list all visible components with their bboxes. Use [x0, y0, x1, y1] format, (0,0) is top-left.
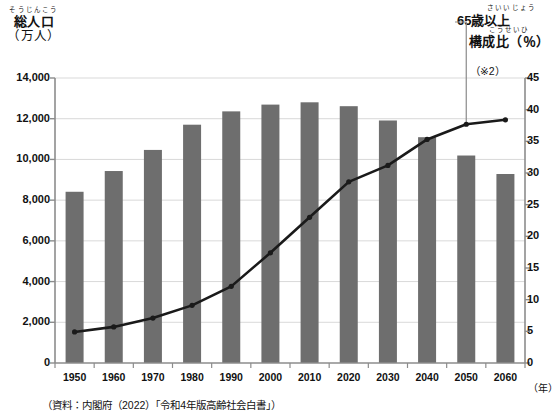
x-axis-tick-label: 2050: [446, 371, 486, 383]
plot-area: [0, 0, 557, 415]
line-marker-elderly-ratio: [111, 324, 116, 329]
x-axis-tick-label: 1970: [133, 371, 173, 383]
line-elderly-ratio: [75, 120, 506, 332]
callout-leader-line: [455, 22, 466, 124]
x-axis-tick-label: 1950: [55, 371, 95, 383]
bar-total-population: [457, 156, 475, 363]
left-axis-tick-label: 12,000: [4, 112, 50, 124]
x-axis-tick-label: 2000: [250, 371, 290, 383]
bar-total-population: [340, 106, 358, 363]
line-marker-elderly-ratio: [268, 250, 273, 255]
left-axis-tick-label: 4,000: [4, 275, 50, 287]
right-axis-tick-label: 5: [527, 324, 557, 336]
population-composition-chart: そうじんこう 総人口 （万人） こうせいひ 構成比（％） （※2） さいいじょう…: [0, 0, 557, 415]
bar-total-population: [418, 137, 436, 363]
bar-total-population: [183, 125, 201, 363]
left-axis-tick-label: 2,000: [4, 315, 50, 327]
left-axis-tick-label: 8,000: [4, 193, 50, 205]
right-axis-tick-label: 45: [527, 71, 557, 83]
right-axis-tick-label: 20: [527, 229, 557, 241]
line-marker-elderly-ratio: [307, 215, 312, 220]
bar-total-population: [379, 120, 397, 363]
right-axis-tick-label: 30: [527, 166, 557, 178]
line-marker-elderly-ratio: [150, 315, 155, 320]
line-marker-elderly-ratio: [385, 163, 390, 168]
left-axis-tick-label: 10,000: [4, 152, 50, 164]
bar-total-population: [496, 174, 514, 363]
right-axis-tick-label: 25: [527, 198, 557, 210]
x-axis-tick-label: 1960: [94, 371, 134, 383]
left-axis-tick-label: 0: [4, 356, 50, 368]
x-axis-tick-label: 2010: [290, 371, 330, 383]
x-axis-tick-label: 2060: [485, 371, 525, 383]
line-marker-elderly-ratio: [346, 179, 351, 184]
bar-total-population: [222, 111, 240, 363]
line-marker-elderly-ratio: [464, 122, 469, 127]
line-marker-elderly-ratio: [72, 329, 77, 334]
x-axis-tick-label: 2030: [368, 371, 408, 383]
x-axis-unit-label: （年）: [528, 380, 557, 395]
x-axis-tick-label: 1990: [211, 371, 251, 383]
right-axis-tick-label: 10: [527, 293, 557, 305]
x-axis-tick-label: 2040: [407, 371, 447, 383]
bar-total-population: [144, 150, 162, 363]
bar-total-population: [66, 192, 84, 363]
left-axis-tick-label: 6,000: [4, 234, 50, 246]
line-marker-elderly-ratio: [503, 117, 508, 122]
right-axis-tick-label: 15: [527, 261, 557, 273]
x-axis-tick-label: 2020: [329, 371, 369, 383]
bar-total-population: [105, 171, 123, 363]
right-axis-tick-label: 35: [527, 134, 557, 146]
left-axis-tick-label: 14,000: [4, 71, 50, 83]
bar-total-population: [261, 105, 279, 363]
right-axis-tick-label: 40: [527, 103, 557, 115]
bar-total-population: [301, 102, 319, 363]
right-axis-tick-label: 0: [527, 356, 557, 368]
line-marker-elderly-ratio: [229, 284, 234, 289]
x-axis-tick-label: 1980: [172, 371, 212, 383]
line-marker-elderly-ratio: [189, 303, 194, 308]
source-note: （資料：内閣府（2022）「令和4年版高齢社会白書」）: [42, 397, 281, 412]
line-marker-elderly-ratio: [424, 137, 429, 142]
